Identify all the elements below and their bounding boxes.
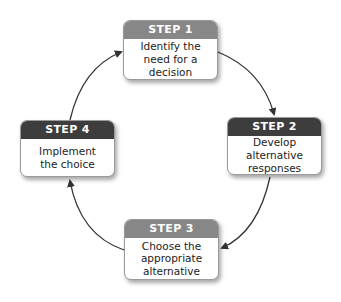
step-4-header: STEP 4 — [21, 121, 114, 139]
step-3-text: Choose the appropriate alternative — [125, 238, 218, 279]
step-1-box: STEP 1 Identify the need for a decision — [123, 20, 218, 80]
step-4-box: STEP 4 Implement the choice — [20, 120, 115, 177]
arrow-step4-to-step1 — [70, 52, 121, 120]
arrow-step3-to-step4 — [70, 181, 124, 250]
step-3-box: STEP 3 Choose the appropriate alternativ… — [124, 219, 219, 280]
step-1-text: Identify the need for a decision — [124, 39, 217, 79]
step-1-header: STEP 1 — [124, 21, 217, 39]
step-3-header: STEP 3 — [125, 220, 218, 238]
step-2-text: Develop alternative responses — [228, 136, 321, 174]
step-4-text: Implement the choice — [21, 139, 114, 176]
step-2-box: STEP 2 Develop alternative responses — [227, 117, 322, 175]
arrow-step2-to-step3 — [222, 177, 270, 248]
step-2-header: STEP 2 — [228, 118, 321, 136]
arrow-step1-to-step2 — [218, 52, 274, 114]
